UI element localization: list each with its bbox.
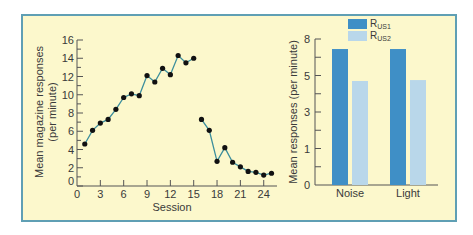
bar-y-tick-label: 3 — [304, 106, 310, 118]
data-point — [113, 107, 118, 112]
data-point — [90, 128, 95, 133]
x-tick-label: 3 — [97, 188, 103, 200]
series-line-extinction — [201, 119, 271, 175]
y-axis-title-line-1: Mean magazine responses — [33, 45, 45, 178]
category-label-light: Light — [396, 187, 420, 199]
series-line-acquisition — [85, 56, 194, 145]
data-point — [199, 117, 204, 122]
line-chart-axes: 246810121416003691215182124 — [62, 34, 277, 200]
legend: RUS1 RUS2 — [348, 18, 391, 42]
category-label-noise: Noise — [336, 187, 364, 199]
x-tick-label: 6 — [121, 188, 127, 200]
legend-swatch-rus2 — [348, 31, 367, 41]
bar-y-tick-label: 5 — [304, 70, 310, 82]
x-tick-label: 9 — [144, 188, 150, 200]
figure: 246810121416003691215182124 Session Mean… — [0, 0, 473, 235]
data-point — [183, 60, 188, 65]
y-tick-label: 4 — [68, 144, 74, 156]
data-point — [129, 91, 134, 96]
y-tick-label: 12 — [62, 71, 74, 83]
bar-y-axis-title: Mean responses (per minute) — [287, 40, 299, 184]
legend-label-rus2: RUS2 — [370, 30, 391, 42]
bar-chart: 01358NoiseLight Mean responses (per minu… — [287, 18, 438, 199]
y-tick-label: 2 — [68, 162, 74, 174]
x-tick-label: 24 — [258, 188, 270, 200]
data-point — [238, 164, 243, 169]
data-point — [261, 172, 266, 177]
x-tick-label: 21 — [234, 188, 246, 200]
y-tick-label: 8 — [68, 107, 74, 119]
bar-y-tick-label: 0 — [304, 179, 310, 191]
x-tick-label: 12 — [164, 188, 176, 200]
bar-light-rus2 — [410, 80, 426, 185]
data-point — [121, 95, 126, 100]
x-tick-label: 0 — [74, 188, 80, 200]
data-point — [176, 53, 181, 58]
data-point — [230, 160, 235, 165]
svg-text:Mean responses (per minute): Mean responses (per minute) — [287, 40, 299, 184]
data-point — [152, 79, 157, 84]
bar-y-tick-label: 8 — [304, 33, 310, 45]
y-tick-label: 10 — [62, 89, 74, 101]
data-point — [106, 117, 111, 122]
data-point — [222, 145, 227, 150]
data-point — [168, 72, 173, 77]
data-point — [253, 170, 258, 175]
data-point — [144, 73, 149, 78]
x-tick-label: 18 — [211, 188, 223, 200]
data-point — [214, 159, 219, 164]
bar-light-rus1 — [390, 49, 406, 185]
bar-noise-rus1 — [332, 49, 348, 185]
data-point — [246, 169, 251, 174]
legend-label-rus1: RUS1 — [370, 18, 391, 30]
data-point — [82, 141, 87, 146]
data-point — [191, 56, 196, 61]
data-point — [269, 171, 274, 176]
bar-y-tick-label: 1 — [304, 143, 310, 155]
y-axis-title: Mean magazine responses (per minute) — [33, 45, 58, 178]
x-axis-title: Session — [152, 201, 191, 213]
y-tick-label: 14 — [62, 52, 74, 64]
data-point — [98, 120, 103, 125]
bar-noise-rus2 — [352, 81, 368, 185]
y-tick-label: 6 — [68, 125, 74, 137]
data-point — [160, 66, 165, 71]
y-tick-label: 16 — [62, 34, 74, 46]
y-axis-title-line-2: (per minute) — [46, 82, 58, 141]
y-tick-label: 0 — [68, 175, 74, 187]
data-point — [137, 93, 142, 98]
data-point — [207, 128, 212, 133]
line-chart-series — [82, 53, 274, 178]
x-tick-label: 15 — [188, 188, 200, 200]
bar-chart-bars — [332, 49, 426, 185]
line-chart: 246810121416003691215182124 Session Mean… — [33, 34, 277, 213]
legend-swatch-rus1 — [348, 19, 367, 29]
